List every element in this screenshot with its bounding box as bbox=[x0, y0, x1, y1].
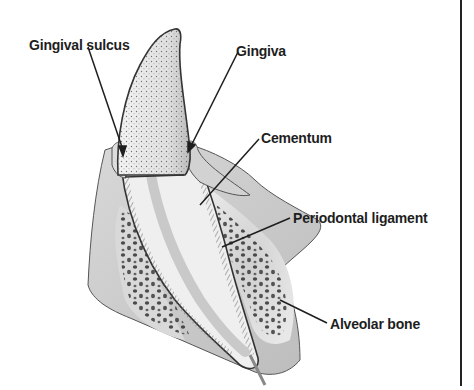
label-gingiva: Gingiva bbox=[236, 43, 286, 59]
label-cementum: Cementum bbox=[261, 130, 332, 146]
tooth-anatomy-diagram: Gingival sulcus Gingiva Cementum Periodo… bbox=[0, 0, 474, 390]
label-alveolar-bone: Alveolar bone bbox=[330, 316, 420, 332]
frame-border bbox=[460, 0, 462, 386]
label-periodontal-ligament: Periodontal ligament bbox=[293, 210, 427, 226]
label-gingival-sulcus: Gingival sulcus bbox=[29, 37, 129, 53]
